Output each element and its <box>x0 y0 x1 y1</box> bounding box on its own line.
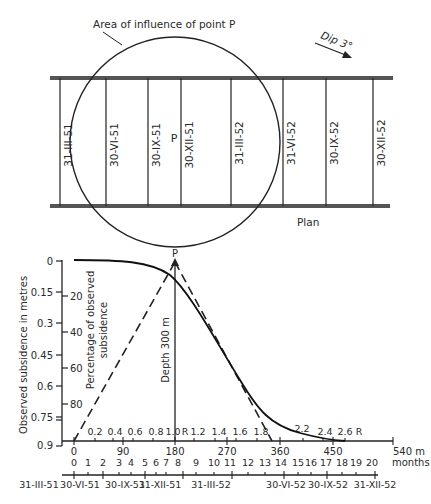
date-tick: 31-III-51 <box>19 479 58 490</box>
r-tick: 0.2 <box>87 426 102 437</box>
face-lines <box>60 78 373 206</box>
date-tick: 31-III-52 <box>191 479 230 490</box>
month-tick: 3 <box>116 457 122 468</box>
distance-tick: 90 <box>117 446 130 457</box>
month-tick: 10 <box>208 457 220 468</box>
month-tick: 11 <box>224 457 236 468</box>
month-tick: 0 <box>71 457 77 468</box>
distance-end-label: 540 m <box>393 446 425 457</box>
face-label: 30-IX-52 <box>328 121 340 165</box>
face-label: 30-IX-51 <box>150 123 162 167</box>
date-tick: 30-IX-52 <box>308 479 348 490</box>
r-tick: R <box>182 426 189 437</box>
r-tick: 1.6 <box>232 426 247 437</box>
plan-bottom-boundary <box>50 204 390 208</box>
distance-tick: 180 <box>165 446 184 457</box>
r-tick: 1.4 <box>211 426 226 437</box>
y-axis-left-title: Observed subsidence in metres <box>18 276 29 434</box>
face-label: 30-XII-51 <box>183 121 195 168</box>
y-tick: 0.15 <box>31 287 53 298</box>
subsidence-curve <box>74 260 345 441</box>
month-tick: 5 <box>142 457 148 468</box>
month-tick: 20 <box>366 457 378 468</box>
r-tick: R <box>356 426 363 437</box>
dip-label: Dip 3° <box>319 29 354 52</box>
r-tick: 0.6 <box>127 426 142 437</box>
face-label: 30-VI-51 <box>108 123 120 167</box>
month-tick: 9 <box>193 457 199 468</box>
r-tick: 1.8 <box>253 426 268 437</box>
month-tick: 15 <box>292 457 304 468</box>
depth-label: Depth 300 m <box>160 317 171 383</box>
y-axis-right-title-1: Percentage of observed <box>85 271 96 390</box>
month-tick: 18 <box>336 457 348 468</box>
y-axis-right-title-2: subsidence <box>98 302 109 358</box>
face-label: 31-VI-52 <box>285 121 297 165</box>
plan-point-p: P <box>171 132 178 145</box>
month-tick: 13 <box>259 457 271 468</box>
month-tick: 16 <box>305 457 317 468</box>
plan-top-boundary <box>50 76 393 80</box>
date-tick: 30-VI-52 <box>266 479 306 490</box>
plan-view: 31-III-51 30-VI-51 30-IX-51 30-XII-51 31… <box>50 18 393 247</box>
months-label: months <box>392 457 430 468</box>
y-tick: 0.3 <box>37 318 53 329</box>
r-tick: 2.6 <box>337 426 352 437</box>
pct-tick: 80 <box>70 399 83 410</box>
distance-tick: 0 <box>71 446 77 457</box>
influence-pointer <box>103 32 122 45</box>
pct-tick: 60 <box>70 363 83 374</box>
r-tick: 0.4 <box>107 426 122 437</box>
y-tick: 0.45 <box>31 350 53 361</box>
date-tick: 30-VI-51 <box>60 479 100 490</box>
y-tick: 0.75 <box>31 412 53 423</box>
y-tick: 0.6 <box>37 381 53 392</box>
distance-tick: 270 <box>217 446 236 457</box>
month-tick: 6 <box>153 457 159 468</box>
month-tick: 14 <box>275 457 287 468</box>
y-tick: 0 <box>47 256 53 267</box>
month-tick: 12 <box>242 457 254 468</box>
distance-tick: 450 <box>323 446 342 457</box>
month-tick: 1 <box>85 457 91 468</box>
face-label: 31-III-52 <box>233 121 245 165</box>
r-tick: 1.0 <box>165 426 180 437</box>
month-tick: 8 <box>175 457 181 468</box>
face-label: 30-XII-52 <box>375 119 387 166</box>
r-tick: 0.8 <box>148 426 163 437</box>
profile-point-p: P <box>172 248 178 259</box>
r-tick: 1.2 <box>190 426 205 437</box>
month-tick: 7 <box>163 457 169 468</box>
month-tick: 19 <box>350 457 362 468</box>
y-tick: 0.9 <box>37 440 53 451</box>
plan-caption: Plan <box>297 216 319 228</box>
pct-tick: 20 <box>70 291 83 302</box>
profile-graph: 0 0.15 0.3 0.45 0.6 0.75 0.9 20 40 60 80… <box>18 248 430 490</box>
date-tick: 31-XII-51 <box>139 479 182 490</box>
subsidence-diagram: 31-III-51 30-VI-51 30-IX-51 30-XII-51 31… <box>0 0 431 504</box>
pct-tick: 40 <box>70 327 83 338</box>
month-tick: 4 <box>128 457 134 468</box>
month-tick: 17 <box>320 457 332 468</box>
month-tick: 2 <box>100 457 106 468</box>
date-tick: 31-XII-52 <box>354 479 397 490</box>
distance-tick: 360 <box>270 446 289 457</box>
r-tick: 2.4 <box>317 426 332 437</box>
influence-label: Area of influence of point P <box>93 18 235 30</box>
